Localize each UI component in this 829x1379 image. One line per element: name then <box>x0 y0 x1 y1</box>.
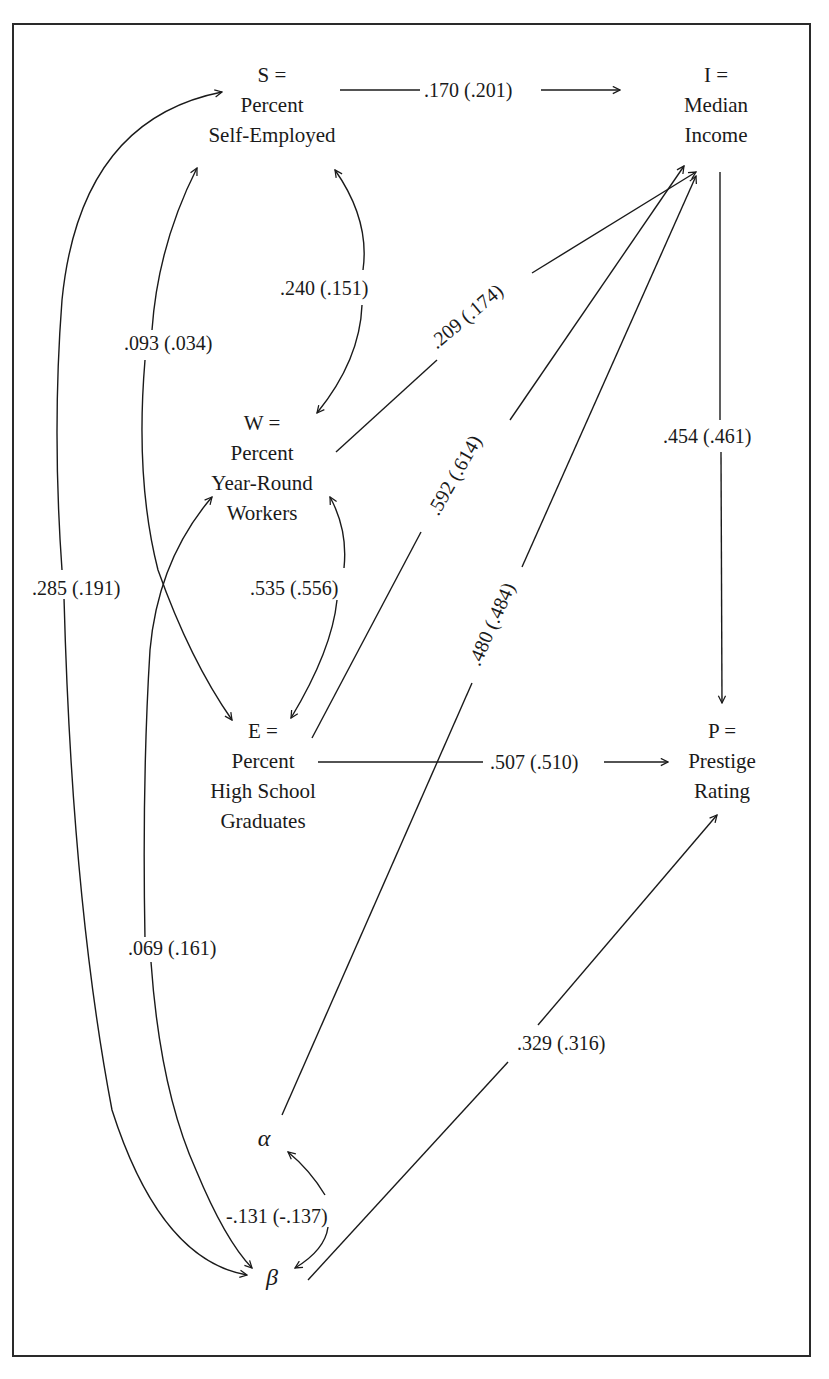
node-alpha: α <box>258 1125 271 1152</box>
label-S-beta: .285 (.191) <box>30 577 122 599</box>
node-W-line3: Workers <box>211 498 312 528</box>
edge-alpha-beta-2 <box>295 1227 328 1268</box>
edge-W-I-head <box>532 172 696 273</box>
node-E-line1: Percent <box>210 746 316 776</box>
node-S: S = Percent Self-Employed <box>208 60 335 150</box>
node-S-line1: Percent <box>208 90 335 120</box>
node-S-line2: Self-Employed <box>208 120 335 150</box>
label-S-W: .240 (.151) <box>278 277 370 299</box>
node-E: E = Percent High School Graduates <box>210 716 316 836</box>
edge-S-W <box>335 170 364 270</box>
node-I: I = Median Income <box>684 60 748 150</box>
node-I-symbol: I = <box>684 60 748 90</box>
node-I-line1: Median <box>684 90 748 120</box>
edge-S-W-2 <box>317 305 362 413</box>
node-P-line1: Prestige <box>688 746 756 776</box>
edge-E-I-head <box>510 166 684 420</box>
label-E-P: .507 (.510) <box>488 751 580 773</box>
edge-W-beta <box>144 497 212 940</box>
label-W-E: .535 (.556) <box>248 577 340 599</box>
node-E-symbol: E = <box>210 716 316 746</box>
label-alpha-beta: -.131 (-.137) <box>224 1205 330 1227</box>
node-W-line2: Year-Round <box>211 468 312 498</box>
edge-E-I <box>312 532 421 738</box>
node-beta: β <box>266 1264 278 1291</box>
label-beta-P: .329 (.316) <box>515 1032 607 1054</box>
edge-alpha-I-head <box>522 176 696 567</box>
path-diagram-edges <box>0 0 829 1379</box>
node-E-line3: Graduates <box>210 806 316 836</box>
edge-beta-P-head <box>538 815 717 1025</box>
node-W-line1: Percent <box>211 438 312 468</box>
node-S-symbol: S = <box>208 60 335 90</box>
label-S-E: .093 (.034) <box>122 332 214 354</box>
edge-beta-P <box>308 1062 508 1280</box>
edge-S-E <box>152 168 197 330</box>
label-S-I: .170 (.201) <box>422 79 514 101</box>
label-W-beta: .069 (.161) <box>126 937 218 959</box>
node-P: P = Prestige Rating <box>688 716 756 806</box>
edge-I-P-head <box>721 452 722 703</box>
node-W: W = Percent Year-Round Workers <box>211 408 312 528</box>
node-P-symbol: P = <box>688 716 756 746</box>
edge-S-beta <box>57 92 222 570</box>
edge-W-E <box>330 497 345 568</box>
node-P-line2: Rating <box>688 776 756 806</box>
edge-W-E-2 <box>291 600 337 718</box>
node-W-symbol: W = <box>211 408 312 438</box>
edge-W-I <box>336 360 437 452</box>
edge-alpha-beta <box>288 1152 325 1195</box>
node-E-line2: High School <box>210 776 316 806</box>
node-I-line2: Income <box>684 120 748 150</box>
label-I-P: .454 (.461) <box>661 425 753 447</box>
